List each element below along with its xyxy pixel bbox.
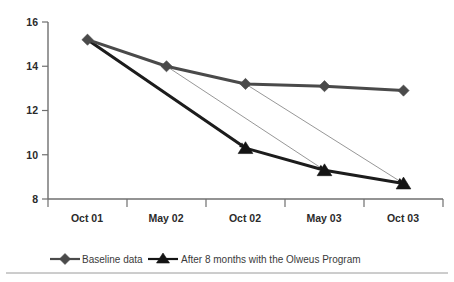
y-tick-label-14: 14 [26,60,38,72]
chart-legend: Baseline data After 8 months with the Ol… [50,253,361,265]
y-tick-label-10: 10 [26,149,38,161]
x-tick-label-oct-02: Oct 02 [229,212,261,224]
chart-background [0,0,454,282]
line-chart-canvas: 16 14 12 10 8 Oct 01 [0,0,454,282]
y-tick-label-8: 8 [32,193,38,205]
y-tick-label-12: 12 [26,104,38,116]
x-tick-label-may-02: May 02 [148,212,183,224]
x-tick-label-oct-01: Oct 01 [71,212,103,224]
x-tick-label-oct-03: Oct 03 [387,212,419,224]
legend-entry-baseline[interactable]: Baseline data [50,254,143,265]
x-tick-label-may-03: May 03 [306,212,341,224]
legend-label-baseline: Baseline data [82,254,143,265]
y-tick-label-16: 16 [26,16,38,28]
chart-figure: 16 14 12 10 8 Oct 01 [0,0,454,282]
legend-label-treatment: After 8 months with the Olweus Program [181,254,361,265]
